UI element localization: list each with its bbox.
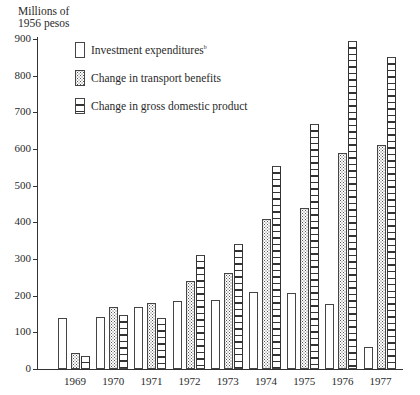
x-tick-label: 1977	[362, 375, 400, 387]
footnote-marker: b	[204, 44, 207, 50]
bar-1973-trn	[224, 273, 233, 369]
y-axis-title: Millions of 1956 pesos	[18, 5, 69, 29]
y-axis-title-line2: 1956 pesos	[18, 17, 69, 29]
x-tick-label: 1974	[247, 375, 285, 387]
bar-1974-trn	[262, 219, 271, 369]
y-tick-label: 100	[0, 326, 31, 337]
y-axis-title-line1: Millions of	[18, 5, 69, 17]
bar-1977-trn	[377, 145, 386, 369]
bar-1970-inv	[96, 317, 105, 369]
y-tick	[33, 39, 37, 40]
bar-1969-inv	[58, 318, 67, 369]
y-tick-label: 200	[0, 290, 31, 301]
bar-1977-gdp	[387, 57, 396, 369]
y-axis	[37, 37, 38, 370]
y-tick-label: 800	[0, 70, 31, 81]
bar-1976-inv	[325, 304, 334, 369]
x-tick-label: 1972	[171, 375, 209, 387]
bar-1971-gdp	[157, 318, 166, 369]
y-tick	[33, 186, 37, 187]
y-tick	[33, 112, 37, 113]
bar-1976-trn	[338, 153, 347, 369]
bar-1976-gdp	[348, 41, 357, 369]
bar-1970-gdp	[119, 315, 128, 369]
x-tick-label: 1970	[94, 375, 132, 387]
y-tick-label: 500	[0, 180, 31, 191]
bar-1974-gdp	[272, 166, 281, 369]
x-tick-label: 1976	[323, 375, 361, 387]
bar-1973-inv	[211, 300, 220, 369]
y-tick	[33, 149, 37, 150]
bar-1972-trn	[186, 281, 195, 369]
legend-label: Change in gross domestic product	[91, 100, 248, 112]
bar-1971-trn	[147, 303, 156, 369]
y-tick	[33, 222, 37, 223]
y-tick	[33, 76, 37, 77]
y-tick-label: 400	[0, 216, 31, 227]
bar-1975-inv	[287, 293, 296, 369]
blank-swatch-icon	[75, 42, 85, 58]
bar-1977-inv	[364, 347, 373, 369]
x-axis	[37, 369, 403, 370]
y-tick	[33, 259, 37, 260]
x-tick-label: 1975	[285, 375, 323, 387]
y-tick	[33, 332, 37, 333]
bar-1969-trn	[71, 353, 80, 370]
y-tick-label: 0	[0, 363, 31, 374]
x-tick-label: 1969	[56, 375, 94, 387]
striped-swatch-icon	[75, 98, 85, 114]
y-tick-label: 300	[0, 253, 31, 264]
dotted-swatch-icon	[75, 70, 85, 86]
legend-label: Investment expenditures	[91, 44, 204, 56]
bar-1970-trn	[109, 307, 118, 369]
y-tick	[33, 296, 37, 297]
bar-1972-inv	[173, 301, 182, 369]
y-tick-label: 600	[0, 143, 31, 154]
bar-1975-trn	[300, 208, 309, 369]
bar-1969-gdp	[81, 356, 90, 369]
y-tick-label: 900	[0, 33, 31, 44]
y-tick-label: 700	[0, 106, 31, 117]
bar-1975-gdp	[310, 124, 319, 369]
x-tick-label: 1971	[132, 375, 170, 387]
bar-1973-gdp	[234, 244, 243, 369]
bar-1971-inv	[134, 307, 143, 369]
bar-1972-gdp	[196, 255, 205, 369]
x-tick-label: 1973	[209, 375, 247, 387]
legend-label: Change in transport benefits	[91, 72, 221, 84]
y-tick	[33, 369, 37, 370]
bar-1974-inv	[249, 292, 258, 369]
